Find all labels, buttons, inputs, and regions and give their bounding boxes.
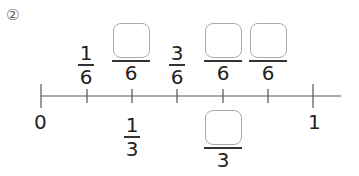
fraction-1-3: 1 3 bbox=[124, 114, 140, 160]
numerator: 1 bbox=[126, 114, 139, 136]
denominator: 3 bbox=[217, 149, 230, 171]
denominator: 3 bbox=[126, 138, 139, 160]
number-line bbox=[0, 0, 359, 176]
axis-label-zero: 0 bbox=[34, 110, 47, 134]
answer-box[interactable] bbox=[205, 110, 242, 145]
axis-label-one: 1 bbox=[308, 110, 321, 134]
fraction-blank-3: 3 bbox=[204, 110, 242, 171]
